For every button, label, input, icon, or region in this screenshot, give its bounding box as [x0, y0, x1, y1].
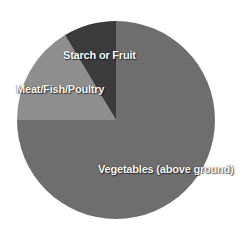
- pie-svg: [0, 0, 245, 237]
- label-vegetables: Vegetables (above ground): [98, 163, 234, 175]
- label-meat-fish-poultry: Meat/Fish/Poultry: [16, 83, 104, 95]
- pie-chart: Starch or Fruit Meat/Fish/Poultry Vegeta…: [0, 0, 245, 237]
- label-starch-or-fruit: Starch or Fruit: [63, 49, 136, 61]
